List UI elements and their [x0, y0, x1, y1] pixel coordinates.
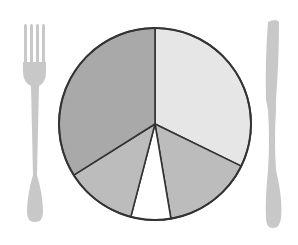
- knife-icon: [266, 20, 282, 228]
- plate-pie-illustration: [0, 0, 298, 245]
- pie-chart: [59, 28, 251, 220]
- fork-icon: [23, 24, 46, 222]
